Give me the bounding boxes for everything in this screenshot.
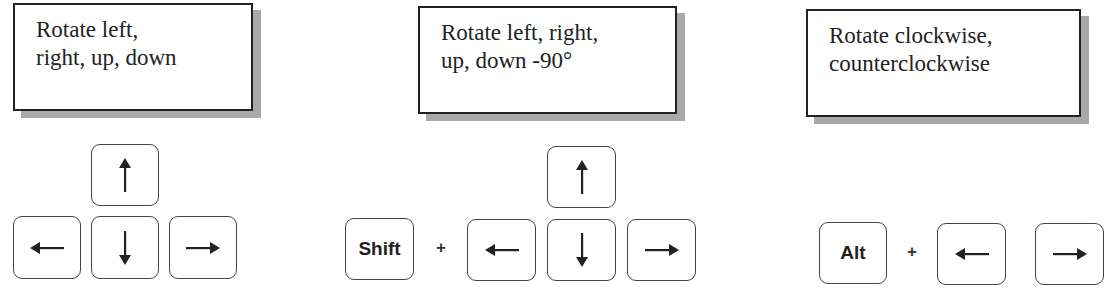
key-down[interactable] xyxy=(91,216,159,279)
key-right[interactable] xyxy=(627,219,696,281)
right-arrow-icon xyxy=(1053,247,1087,261)
key-shift[interactable]: Shift xyxy=(345,218,414,280)
caption-box-rotate: Rotate left, right, up, down xyxy=(13,3,253,111)
plus-sign: + xyxy=(436,238,446,258)
key-right[interactable] xyxy=(169,216,237,279)
key-right[interactable] xyxy=(1035,223,1104,285)
left-arrow-icon xyxy=(30,241,64,255)
left-arrow-icon xyxy=(955,247,989,261)
caption-line: Rotate left, xyxy=(36,16,251,44)
key-label: Shift xyxy=(358,238,400,260)
key-left[interactable] xyxy=(937,223,1006,285)
caption-line: counterclockwise xyxy=(829,50,1079,78)
caption-line: up, down -90° xyxy=(441,47,675,75)
key-left[interactable] xyxy=(467,219,536,281)
key-label: Alt xyxy=(840,242,865,264)
key-alt[interactable]: Alt xyxy=(819,222,887,284)
caption-line: Rotate left, right, xyxy=(441,19,675,47)
plus-sign: + xyxy=(907,242,917,262)
caption-box-rotate-90: Rotate left, right, up, down -90° xyxy=(418,6,677,114)
caption-line: right, up, down xyxy=(36,44,251,72)
right-arrow-icon xyxy=(645,243,679,257)
key-up[interactable] xyxy=(91,144,159,206)
up-arrow-icon xyxy=(575,160,589,194)
down-arrow-icon xyxy=(118,231,132,265)
caption-line: Rotate clockwise, xyxy=(829,22,1079,50)
down-arrow-icon xyxy=(575,233,589,267)
caption-box-rotate-clockwise: Rotate clockwise, counterclockwise xyxy=(806,9,1081,117)
key-left[interactable] xyxy=(13,216,81,279)
up-arrow-icon xyxy=(118,158,132,192)
key-down[interactable] xyxy=(547,219,616,281)
right-arrow-icon xyxy=(186,241,220,255)
left-arrow-icon xyxy=(485,243,519,257)
key-up[interactable] xyxy=(547,146,616,208)
